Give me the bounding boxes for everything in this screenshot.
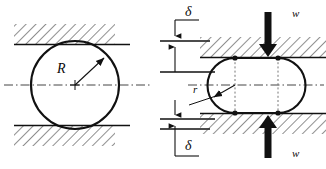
label-load-w-bottom: w [292,148,299,159]
label-load-w-top: w [292,8,299,19]
label-gap-delta-bottom: δ [185,139,192,153]
radius-arrow-R [75,58,104,85]
label-radius-R: R [57,62,66,76]
radius-arrow-r [214,85,235,97]
contact-deformation-figure: R r δ δ w w [0,0,326,169]
label-gap-delta-top: δ [185,5,192,19]
figure-canvas [0,0,326,169]
label-radius-r: r [193,84,197,95]
